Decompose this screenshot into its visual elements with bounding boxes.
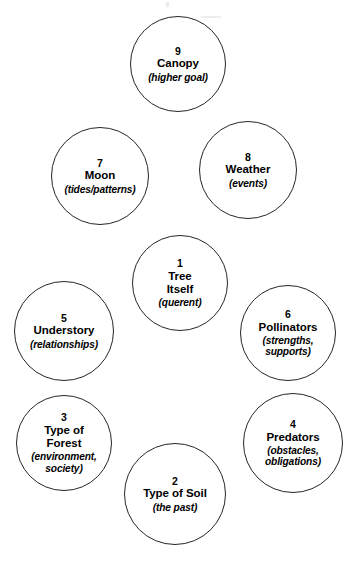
- node-subtitle: (relationships): [30, 339, 98, 351]
- node-title: Moon: [85, 169, 115, 183]
- node-number: 8: [245, 151, 251, 164]
- node-title: Weather: [226, 163, 271, 177]
- node-title: Understory: [34, 324, 95, 338]
- node-understory[interactable]: 5Understory(relationships): [14, 281, 114, 381]
- node-subtitle: (environment, society): [31, 451, 96, 475]
- node-title: Type of Soil: [143, 487, 207, 501]
- node-number: 9: [175, 45, 181, 58]
- node-subtitle: (tides/patterns): [64, 184, 135, 196]
- node-subtitle: (strengths, supports): [263, 335, 314, 359]
- node-type-of-forest[interactable]: 3Type of Forest(environment, society): [16, 395, 112, 491]
- node-title: Pollinators: [259, 321, 318, 335]
- node-title: Type of Forest: [44, 424, 84, 451]
- node-predators[interactable]: 4Predators(obstacles, obligations): [243, 393, 343, 493]
- node-subtitle: (higher goal): [148, 72, 208, 84]
- scan-artifact: [166, 2, 169, 7]
- scan-artifact: [200, 16, 222, 18]
- node-title: Predators: [266, 431, 319, 445]
- node-number: 6: [285, 308, 291, 321]
- node-number: 4: [290, 418, 296, 431]
- node-number: 7: [97, 157, 103, 170]
- node-number: 1: [177, 257, 183, 270]
- node-weather[interactable]: 8Weather(events): [199, 121, 297, 219]
- node-subtitle: (obstacles, obligations): [265, 445, 321, 469]
- node-type-of-soil[interactable]: 2Type of Soil(the past): [124, 443, 226, 545]
- node-number: 2: [172, 475, 178, 488]
- node-subtitle: (events): [229, 178, 267, 190]
- node-title: Tree Itself: [167, 270, 194, 297]
- node-subtitle: (querent): [159, 297, 202, 309]
- node-tree-itself[interactable]: 1Tree Itself(querent): [132, 235, 228, 331]
- node-subtitle: (the past): [153, 502, 197, 514]
- node-title: Canopy: [157, 57, 199, 71]
- node-pollinators[interactable]: 6Pollinators(strengths, supports): [240, 285, 336, 381]
- node-number: 5: [61, 312, 67, 325]
- tree-spread-diagram: 9Canopy(higher goal)7Moon(tides/patterns…: [0, 0, 356, 561]
- node-number: 3: [61, 411, 67, 424]
- node-canopy[interactable]: 9Canopy(higher goal): [130, 16, 226, 112]
- node-moon[interactable]: 7Moon(tides/patterns): [51, 127, 149, 225]
